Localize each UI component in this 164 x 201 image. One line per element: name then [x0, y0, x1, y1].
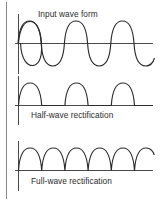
- panel-label-input-wave-form: Input wave form: [38, 9, 98, 19]
- panel-label-half-wave-rectification: Half-wave rectification: [31, 110, 114, 120]
- panel-label-full-wave-rectification: Full-wave rectification: [31, 176, 112, 186]
- rectification-figure: Input wave form Half-wave rectification …: [0, 0, 164, 201]
- half-wave-waveform-trace: [19, 83, 154, 106]
- full-wave-waveform-trace: [19, 148, 155, 171]
- panel-full-wave-rectification: Full-wave rectification: [15, 141, 154, 191]
- panel-input-wave-form: Input wave form: [15, 9, 155, 74]
- panel-half-wave-rectification: Half-wave rectification: [15, 76, 153, 125]
